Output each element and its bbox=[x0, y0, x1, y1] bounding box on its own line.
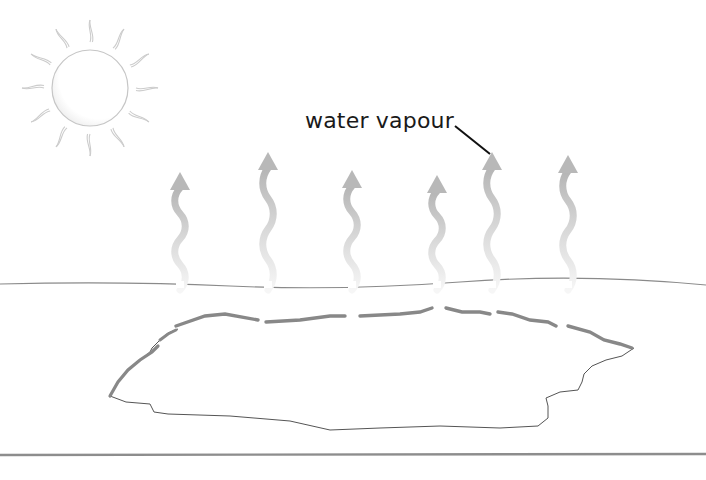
sun-ray-edge bbox=[56, 29, 69, 47]
sun-ray-edge bbox=[115, 29, 124, 49]
arrow-head-icon bbox=[482, 152, 502, 170]
vapour-arrow bbox=[342, 170, 362, 290]
arrow-head-icon bbox=[427, 175, 447, 193]
sun-ray-edge bbox=[131, 54, 149, 67]
arrow-head-icon bbox=[170, 172, 190, 190]
vapour-arrow bbox=[558, 155, 578, 290]
arrow-head-icon bbox=[342, 170, 362, 188]
vapour-arrow bbox=[258, 152, 278, 290]
diagram-canvas bbox=[0, 0, 706, 480]
vapour-arrows bbox=[170, 152, 578, 290]
sun-ray-edge bbox=[31, 54, 51, 63]
vapour-arrow bbox=[170, 172, 190, 290]
sun-ray-edge bbox=[111, 129, 124, 147]
puddle bbox=[110, 308, 634, 430]
evaporation-diagram: water vapour bbox=[0, 0, 706, 480]
sun-icon bbox=[22, 20, 158, 156]
arrow-head-icon bbox=[558, 155, 578, 173]
label-leader-line bbox=[455, 126, 490, 154]
baseline bbox=[0, 454, 706, 455]
arrow-head-icon bbox=[258, 152, 278, 170]
vapour-arrow bbox=[427, 175, 447, 290]
water-vapour-label: water vapour bbox=[305, 108, 454, 133]
vapour-arrow bbox=[482, 152, 502, 290]
sun-ray-edge bbox=[56, 127, 65, 147]
sun-ray-edge bbox=[129, 113, 149, 122]
sun-ray-edge bbox=[31, 109, 49, 122]
